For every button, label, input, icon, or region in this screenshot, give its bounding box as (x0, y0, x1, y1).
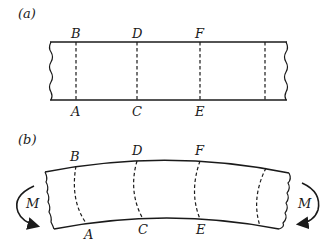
panel-b-label: (b) (18, 132, 36, 147)
bent-point-f-label: F (194, 143, 205, 158)
bent-section-line-cd (134, 161, 143, 219)
bent-point-d-label: D (131, 143, 143, 158)
bent-point-c-label: C (138, 222, 148, 237)
bent-section-line-ab (74, 166, 86, 223)
point-f-label: F (194, 26, 205, 41)
bent-beam-left-break (45, 172, 54, 229)
left-moment-label: M (25, 196, 40, 211)
panel-b: (b) B D F A C E M M (17, 132, 319, 242)
beam-right-break (285, 42, 288, 100)
point-c-label: C (132, 104, 142, 119)
panel-a-label: (a) (18, 6, 36, 21)
beam-left-break (50, 42, 53, 100)
point-b-label: B (70, 26, 81, 41)
panel-a: (a) B D F A C E (18, 6, 288, 119)
right-moment-label: M (297, 196, 312, 211)
point-a-label: A (70, 104, 80, 119)
bent-point-b-label: B (69, 149, 80, 164)
bent-point-e-label: E (195, 222, 206, 237)
bent-section-line-extra (257, 168, 266, 226)
bent-beam-right-break (279, 173, 290, 229)
point-d-label: D (131, 26, 143, 41)
beam-bending-diagram: (a) B D F A C E (b) B D F A C E M (0, 0, 335, 251)
point-e-label: E (194, 104, 205, 119)
bent-point-a-label: A (83, 227, 93, 242)
bent-beam-top-edge (45, 160, 289, 173)
bent-section-line-ef (195, 161, 201, 219)
